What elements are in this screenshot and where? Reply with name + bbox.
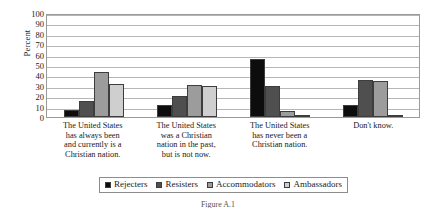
legend-label: Rejecters xyxy=(114,179,147,190)
plot-area xyxy=(46,14,420,118)
x-axis-category-labels: The United Stateshas always beenand curr… xyxy=(46,121,420,159)
bar xyxy=(94,72,109,117)
legend-item-rejecters: Rejecters xyxy=(105,179,147,190)
y-axis-tick-70: 70 xyxy=(14,41,44,50)
bar-group xyxy=(326,15,419,117)
bar xyxy=(64,110,79,117)
chart-legend: RejectersResistersAccommodatorsAmbassado… xyxy=(99,177,348,193)
y-axis-tick-20: 20 xyxy=(14,93,44,102)
bar xyxy=(202,86,217,117)
y-axis-tick-90: 90 xyxy=(14,20,44,29)
bar-group xyxy=(140,15,233,117)
bar xyxy=(358,80,373,117)
legend-swatch-icon xyxy=(105,182,111,188)
legend-swatch-icon xyxy=(156,182,162,188)
y-axis-tick-80: 80 xyxy=(14,31,44,40)
bar xyxy=(172,96,187,117)
bar xyxy=(295,115,310,117)
x-axis-label-line: Don't know. xyxy=(353,121,393,130)
x-axis-label-2: The United Stateswas a Christiannation i… xyxy=(140,121,234,159)
x-axis-label-line: The United States xyxy=(250,121,309,130)
legend-label: Accommodators xyxy=(216,179,275,190)
legend-item-accommodators: Accommodators xyxy=(207,179,275,190)
legend-label: Ambassadors xyxy=(293,179,342,190)
bar xyxy=(265,86,280,117)
y-axis-tick-100: 100 xyxy=(14,10,44,19)
x-axis-label-line: but is not now. xyxy=(162,150,211,159)
y-axis-tick-30: 30 xyxy=(14,83,44,92)
legend-swatch-icon xyxy=(207,182,213,188)
x-axis-label-3: The United Stateshas never been aChristi… xyxy=(233,121,327,159)
bar xyxy=(280,111,295,117)
y-axis-tick-40: 40 xyxy=(14,72,44,81)
legend-item-ambassadors: Ambassadors xyxy=(284,179,342,190)
bar xyxy=(79,101,94,117)
figure-caption: Figure A.1 xyxy=(0,200,436,208)
x-axis-label-4: Don't know. xyxy=(327,121,421,159)
x-axis-label-line: Christian nation. xyxy=(252,140,307,149)
x-axis-label-1: The United Stateshas always beenand curr… xyxy=(46,121,140,159)
bar xyxy=(187,85,202,117)
bar xyxy=(343,105,358,117)
legend-swatch-icon xyxy=(284,182,290,188)
bar xyxy=(373,81,388,117)
bar xyxy=(388,115,403,117)
x-axis-label-line: Christian nation. xyxy=(65,150,120,159)
legend-item-resisters: Resisters xyxy=(156,179,198,190)
x-axis-label-line: has always been xyxy=(66,131,120,140)
x-axis-label-line: nation in the past, xyxy=(157,140,216,149)
y-axis-tick-50: 50 xyxy=(14,62,44,71)
legend-label: Resisters xyxy=(165,179,198,190)
bar xyxy=(109,84,124,117)
bar-group xyxy=(233,15,326,117)
x-axis-label-line: The United States xyxy=(157,121,216,130)
bars-layer xyxy=(47,15,419,117)
bar xyxy=(250,59,265,117)
bar xyxy=(157,105,172,117)
bar-chart-figure: Percent 1009080706050403020100 The Unite… xyxy=(0,0,436,208)
x-axis-label-line: was a Christian xyxy=(161,131,212,140)
x-axis-label-line: and currently is a xyxy=(64,140,121,149)
x-axis-label-line: The United States xyxy=(63,121,122,130)
x-axis-label-line: has never been a xyxy=(252,131,307,140)
y-axis-tick-10: 10 xyxy=(14,103,44,112)
bar-group xyxy=(47,15,140,117)
y-axis-tick-60: 60 xyxy=(14,51,44,60)
y-axis-tick-labels: 1009080706050403020100 xyxy=(14,14,44,118)
y-axis-tick-0: 0 xyxy=(14,114,44,123)
